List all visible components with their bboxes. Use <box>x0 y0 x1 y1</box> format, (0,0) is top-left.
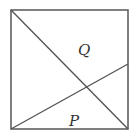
geometry-diagram: Q P <box>0 0 131 138</box>
label-p: P <box>68 112 80 130</box>
label-q: Q <box>78 41 90 59</box>
